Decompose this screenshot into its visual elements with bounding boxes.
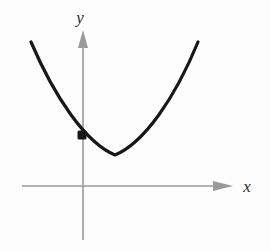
x-axis-label: x [242, 177, 251, 196]
marked-point-dot [78, 131, 87, 140]
figure-background [0, 0, 270, 251]
graph-canvas: y x [0, 0, 270, 251]
y-axis-label: y [74, 8, 84, 27]
parabola-figure: y x [0, 0, 270, 251]
